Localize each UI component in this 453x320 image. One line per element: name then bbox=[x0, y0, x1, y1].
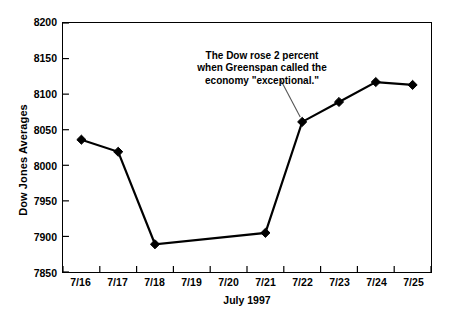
x-tick-label: 7/19 bbox=[173, 276, 210, 292]
x-tick-label: 7/18 bbox=[136, 276, 173, 292]
data-point-marker bbox=[114, 147, 123, 156]
data-point-markers bbox=[77, 77, 417, 248]
x-tick-label: 7/16 bbox=[62, 276, 99, 292]
x-tick-label: 7/17 bbox=[99, 276, 136, 292]
data-point-marker bbox=[298, 117, 307, 126]
annotation-text: The Dow rose 2 percent when Greenspan ca… bbox=[186, 50, 338, 87]
x-tick-label: 7/25 bbox=[395, 276, 432, 292]
data-point-marker bbox=[371, 77, 380, 86]
data-point-marker bbox=[261, 228, 270, 237]
x-tick-label: 7/22 bbox=[284, 276, 321, 292]
y-tick-label: 8000 bbox=[21, 161, 57, 171]
y-tick-label: 8100 bbox=[21, 89, 57, 99]
y-tick-label: 8050 bbox=[21, 125, 57, 135]
y-axis-tick-marks bbox=[63, 23, 69, 272]
y-tick-label: 8150 bbox=[21, 53, 57, 63]
x-tick-label: 7/20 bbox=[210, 276, 247, 292]
y-tick-label: 8200 bbox=[21, 17, 57, 27]
y-tick-label: 7850 bbox=[21, 268, 57, 278]
y-tick-label: 7950 bbox=[21, 196, 57, 206]
y-tick-label: 7900 bbox=[21, 232, 57, 242]
x-tick-label: 7/24 bbox=[358, 276, 395, 292]
data-point-marker bbox=[334, 97, 343, 106]
chart-figure: Dow Jones Averages 8200 8150 8100 8050 8… bbox=[0, 0, 453, 320]
x-axis-title: July 1997 bbox=[62, 294, 432, 306]
data-point-marker bbox=[408, 80, 417, 89]
data-point-marker bbox=[77, 135, 86, 144]
x-axis-tick-labels: 7/16 7/17 7/18 7/19 7/20 7/21 7/22 7/23 … bbox=[62, 276, 432, 292]
x-axis-tick-marks bbox=[63, 266, 431, 272]
x-tick-label: 7/21 bbox=[247, 276, 284, 292]
data-line bbox=[81, 82, 412, 244]
y-axis-tick-labels: 8200 8150 8100 8050 8000 7950 7900 7850 bbox=[21, 0, 57, 320]
data-point-marker bbox=[150, 240, 159, 249]
x-tick-label: 7/23 bbox=[321, 276, 358, 292]
